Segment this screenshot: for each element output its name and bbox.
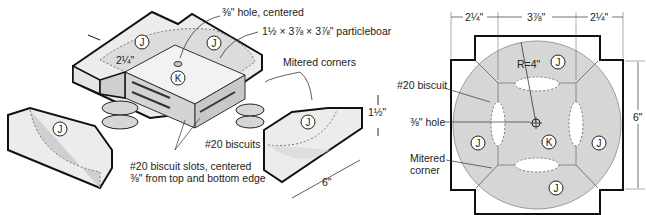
svg-text:K: K [175,73,182,84]
svg-text:J: J [58,124,63,135]
svg-text:J: J [476,138,481,149]
svg-text:J: J [306,117,311,128]
plan-part-j-top: J [551,55,565,69]
slots-label-line1: #20 biscuit slots, centered [130,160,252,172]
svg-text:J: J [556,57,561,68]
slots-label-line2: ⅜" from top and bottom edge [130,172,266,184]
svg-text:K: K [546,137,553,148]
particleboard-label: 1½ × 3⅞ × 3⅞" particleboar [262,25,392,37]
biscuits-left [102,101,138,129]
dim-height-label: 1½" [368,106,387,118]
svg-text:J: J [597,138,602,149]
part-j-circle-2: J [207,36,221,50]
side-block-right: J [264,108,362,182]
hole-label: ⅜" hole, centered [222,6,304,18]
mitered-label-line2: corner [410,164,440,176]
dim-width-label: 2¼" [116,54,135,66]
biscuit-label: #20 biscuit [397,79,447,91]
dim-length-label: 6" [322,176,332,188]
dim-center-label: 3⅞" [527,11,546,23]
woodworking-diagram: J J K 2¼" ⅜" hole, centered 1½ × 3⅞ × 3⅞… [0,0,646,215]
plan-part-j-right: J [592,136,606,150]
dim-left-label: 2¼" [465,11,484,23]
mitered-label-line1: Mitered [410,152,445,164]
hole-plan-label: ⅜" hole [410,116,445,128]
svg-text:J: J [212,38,217,49]
plan-part-k: K [542,135,556,149]
svg-text:J: J [554,183,559,194]
dim-height-plan-label: 6" [633,111,643,123]
radius-label: R=4" [517,58,541,70]
svg-text:J: J [140,37,145,48]
mitered-corners-label: Mitered corners [283,56,356,68]
part-j-circle-1: J [135,35,149,49]
dim-right-label: 2¼" [590,11,609,23]
biscuits-right [236,104,264,128]
side-block-left: J [8,108,112,188]
plan-part-j-left: J [471,136,485,150]
top-assembly [73,12,262,128]
biscuits-label: #20 biscuits [205,138,260,150]
plan-part-j-bottom: J [549,181,563,195]
